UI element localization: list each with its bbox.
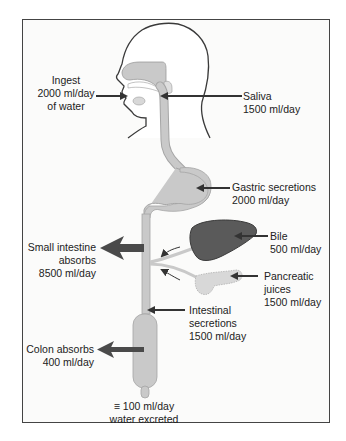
liver xyxy=(190,220,257,261)
excreted-amount: ≡ 100 ml/day xyxy=(108,400,180,413)
colon-amount: 400 ml/day xyxy=(24,356,94,369)
pancreas xyxy=(195,270,242,295)
pancreatic-label: Pancreatic xyxy=(264,270,321,283)
bile-amount: 500 ml/day xyxy=(270,243,321,256)
label-bile: Bile 500 ml/day xyxy=(270,230,321,256)
intestinal-label: Intestinal xyxy=(189,304,246,317)
label-saliva: Saliva 1500 ml/day xyxy=(243,90,300,116)
label-pancreatic: Pancreatic juices 1500 ml/day xyxy=(264,270,321,309)
label-colon: Colon absorbs 400 ml/day xyxy=(24,343,94,369)
gastric-label: Gastric secretions xyxy=(232,181,316,194)
saliva-label: Saliva xyxy=(243,90,300,103)
intestinal-label-line2: secretions xyxy=(189,317,246,330)
pancreatic-label-line2: juices xyxy=(264,283,321,296)
label-excreted: ≡ 100 ml/day water excreted xyxy=(108,400,180,426)
excreted-label: water excreted xyxy=(108,413,180,426)
small-intestine-label-line2: absorbs xyxy=(20,254,96,267)
small-intestine-label: Small intestine xyxy=(20,241,96,254)
bile-label: Bile xyxy=(270,230,321,243)
gastric-amount: 2000 ml/day xyxy=(232,194,316,207)
curved-flow-arrows xyxy=(162,247,180,280)
small-intestine-absorb-arrow xyxy=(100,236,144,260)
label-gastric: Gastric secretions 2000 ml/day xyxy=(232,181,316,207)
small-intestine-amount: 8500 ml/day xyxy=(20,267,96,280)
ducts xyxy=(150,248,198,278)
pancreatic-amount: 1500 ml/day xyxy=(264,296,321,309)
ingest-amount: 2000 ml/day xyxy=(34,87,98,100)
intestinal-amount: 1500 ml/day xyxy=(189,330,246,343)
saliva-amount: 1500 ml/day xyxy=(243,103,300,116)
colon-label: Colon absorbs xyxy=(24,343,94,356)
label-intestinal: Intestinal secretions 1500 ml/day xyxy=(189,304,246,343)
ingest-label-line3: of water xyxy=(34,100,98,113)
label-small-intestine: Small intestine absorbs 8500 ml/day xyxy=(20,241,96,280)
gi-tract-illustration xyxy=(0,0,346,441)
ingest-label-line1: Ingest xyxy=(34,74,98,87)
label-ingest: Ingest 2000 ml/day of water xyxy=(34,74,98,113)
